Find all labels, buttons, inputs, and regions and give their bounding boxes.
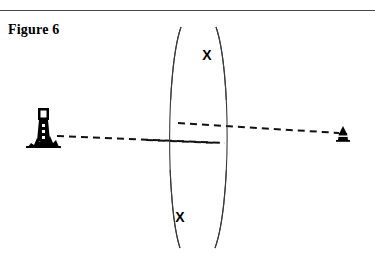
fix-label-top: X: [202, 47, 212, 63]
buoy-baseline: [336, 140, 350, 142]
lighthouse-window-lower: [42, 136, 45, 139]
figure-container: Figure 6: [0, 0, 375, 257]
lighthouse-baseline: [26, 146, 61, 148]
lighthouse-window-mid: [42, 130, 45, 133]
lighthouse-window-upper: [42, 124, 45, 127]
fix-label-bottom: X: [175, 209, 185, 225]
lighthouse-lantern-glass: [41, 111, 47, 118]
buoy-midband: [338, 136, 348, 137]
navigation-diagram: X X: [0, 0, 375, 257]
bearing-clear-band: [0, 100, 375, 170]
bearing-lines-corrected: [0, 100, 375, 170]
